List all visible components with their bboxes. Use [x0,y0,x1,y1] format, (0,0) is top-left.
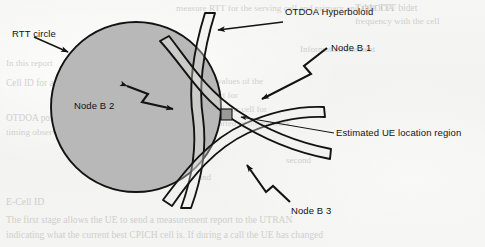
label-estimated-ue-location-region: Estimated UE location region [336,127,461,138]
node-b-3-zigzag-arrow [247,165,290,202]
label-otdoa-hyperboloid: OTDOA Hyperboloid [285,6,373,17]
figure-canvas: measure RTT for the serving cell and pri… [0,0,485,247]
label-node-b-3: Node B 3 [291,205,331,216]
positioning-diagram [0,0,485,247]
estimated-ue-location-region-marker [221,109,232,120]
label-node-b-2: Node B 2 [74,100,114,111]
label-node-b-1: Node B 1 [331,42,371,53]
rtt-circle-leader-line [34,37,68,52]
otdoa-hyperboloid-leader-line [218,22,283,30]
label-rtt-circle: RTT circle [12,28,56,39]
node-b-1-zigzag-arrow [262,48,327,99]
